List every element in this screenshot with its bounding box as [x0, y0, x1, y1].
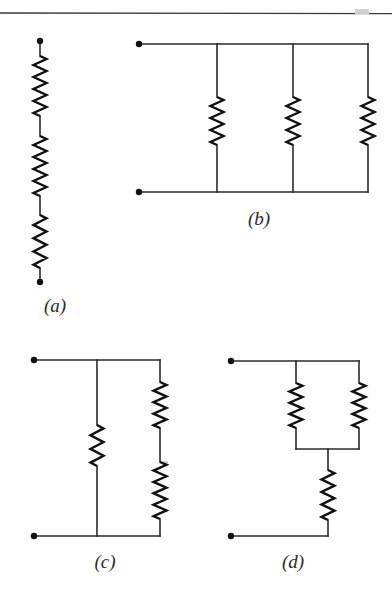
page-rule [0, 13, 392, 14]
circuit-figure-root: (a)(b)(c)(d) [0, 0, 392, 589]
terminal-b-top-left [136, 41, 142, 47]
caption-b: (b) [248, 208, 270, 230]
terminal-a-bottom [37, 279, 43, 285]
terminal-a-top [37, 38, 43, 44]
terminal-d-top-left [228, 358, 234, 364]
scan-speck-1 [355, 9, 369, 14]
terminal-d-bottom-left [228, 533, 234, 539]
caption-a: (a) [44, 295, 66, 317]
terminal-c-top-left [31, 357, 37, 363]
terminal-b-bottom-left [136, 189, 142, 195]
terminal-c-bottom-left [31, 533, 37, 539]
caption-c: (c) [94, 551, 115, 573]
circuit-figure-canvas: (a)(b)(c)(d) [0, 0, 392, 589]
caption-d: (d) [282, 551, 304, 573]
